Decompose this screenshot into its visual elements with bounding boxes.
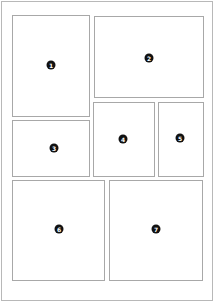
- panel-5: 5: [158, 102, 204, 177]
- panel-6: 6: [12, 180, 105, 281]
- panel-number-badge: 5: [176, 134, 185, 143]
- panel-number-badge: 1: [47, 61, 56, 70]
- panel-4: 4: [93, 102, 155, 177]
- panel-number-badge: 7: [152, 225, 161, 234]
- panel-3: 3: [12, 120, 90, 177]
- panel-number-badge: 3: [50, 144, 59, 153]
- panel-7: 7: [109, 180, 203, 281]
- panel-2: 2: [94, 16, 204, 98]
- panel-1: 1: [12, 15, 90, 117]
- panel-number-badge: 4: [119, 135, 128, 144]
- panel-number-badge: 2: [145, 54, 154, 63]
- panel-number-badge: 6: [55, 225, 64, 234]
